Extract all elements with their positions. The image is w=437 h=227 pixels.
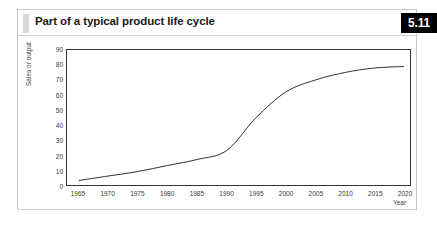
y-axis-tick: 20	[56, 152, 63, 159]
x-axis-tick: 1990	[219, 190, 233, 197]
x-axis-tick: 1975	[130, 190, 144, 197]
product-life-cycle-curve	[79, 66, 404, 180]
plot-area	[66, 49, 411, 186]
y-axis-tick: 10	[56, 167, 63, 174]
line-chart-svg	[67, 50, 410, 185]
y-axis-tick: 30	[56, 137, 63, 144]
x-axis-tick: 2005	[309, 190, 323, 197]
x-axis-tick: 1965	[71, 190, 85, 197]
x-axis-tick: 1985	[190, 190, 204, 197]
page-title: Part of a typical product life cycle	[35, 15, 215, 27]
x-axis-tick: 2000	[279, 190, 293, 197]
x-axis-tick: 2020	[398, 190, 412, 197]
y-axis-tick: 80	[56, 61, 63, 68]
x-axis-tick: 1970	[100, 190, 114, 197]
figure-title-bar: Part of a typical product life cycle	[18, 10, 416, 36]
figure-card: Part of a typical product life cycle 5.1…	[17, 9, 417, 210]
y-axis-tick: 60	[56, 91, 63, 98]
y-axis-tick: 0	[59, 183, 63, 190]
x-axis-tick: 2010	[338, 190, 352, 197]
x-axis-tick-labels: 1965197019751980198519901995200020052010…	[66, 190, 411, 202]
y-axis-label: Sales or output	[25, 42, 32, 86]
x-axis-tick: 2015	[368, 190, 382, 197]
x-axis-tick: 1995	[249, 190, 263, 197]
y-axis-tick-labels: 0102030405060708090	[40, 49, 63, 186]
y-axis-tick: 40	[56, 122, 63, 129]
y-axis-tick: 70	[56, 76, 63, 83]
title-accent-bar	[23, 14, 29, 33]
x-axis-label: Year	[393, 199, 406, 206]
y-axis-tick: 90	[56, 46, 63, 53]
x-axis-tick: 1980	[160, 190, 174, 197]
figure-number-badge: 5.11	[401, 13, 437, 33]
y-axis-tick: 50	[56, 106, 63, 113]
